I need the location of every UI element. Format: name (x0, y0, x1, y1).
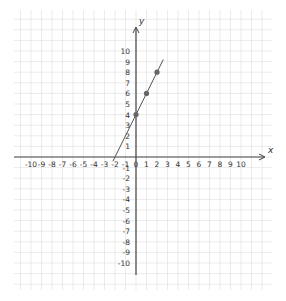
y-tick-label: -8 (123, 238, 131, 247)
x-tick-label: -3 (101, 160, 109, 169)
y-tick-label: 4 (125, 111, 130, 120)
y-tick-label: -5 (123, 206, 131, 215)
x-tick-label: 6 (197, 160, 202, 169)
y-tick-label: 5 (125, 100, 130, 109)
x-tick-label: -10 (25, 160, 37, 169)
y-tick-label: -3 (123, 185, 131, 194)
x-tick-label: 3 (165, 160, 170, 169)
data-series (113, 59, 163, 161)
data-point (144, 91, 149, 96)
x-tick-label: -5 (80, 160, 88, 169)
y-tick-label: 6 (125, 89, 130, 98)
y-tick-label: 8 (125, 68, 130, 77)
y-tick-label: -2 (123, 174, 131, 183)
x-tick-label: -2 (111, 160, 119, 169)
grid-lines (14, 10, 272, 290)
y-axis-label: y (138, 16, 145, 26)
x-tick-label: 9 (228, 160, 233, 169)
x-tick-label: 10 (236, 160, 246, 169)
plotted-line (113, 59, 163, 161)
y-tick-label: 2 (125, 132, 130, 141)
y-tick-label: -6 (123, 217, 131, 226)
x-tick-label: -8 (48, 160, 56, 169)
y-tick-label: 10 (120, 47, 130, 56)
y-tick-label: -4 (123, 195, 131, 204)
coordinate-plane: -10-9-8-7-6-5-4-3-2-1012345678910-10-9-8… (0, 0, 286, 301)
y-tick-label: 9 (125, 58, 130, 67)
x-tick-label: 0 (134, 160, 139, 169)
x-tick-label: 1 (144, 160, 149, 169)
x-tick-label: -9 (38, 160, 46, 169)
y-tick-label: -10 (118, 259, 130, 268)
data-point (133, 112, 138, 117)
y-tick-label: 1 (125, 142, 130, 151)
x-tick-label: -7 (59, 160, 67, 169)
x-tick-label: 5 (186, 160, 191, 169)
x-tick-label: 2 (155, 160, 160, 169)
x-tick-label: 8 (218, 160, 223, 169)
x-axis-label: x (267, 145, 274, 155)
x-tick-label: -4 (90, 160, 98, 169)
data-point (154, 70, 159, 75)
x-tick-label: 4 (176, 160, 181, 169)
y-tick-label: -9 (123, 248, 131, 257)
y-tick-label: 7 (125, 79, 130, 88)
x-tick-label: 7 (207, 160, 212, 169)
x-tick-label: -6 (69, 160, 77, 169)
y-tick-label: -7 (123, 227, 131, 236)
y-tick-label: -1 (123, 164, 131, 173)
